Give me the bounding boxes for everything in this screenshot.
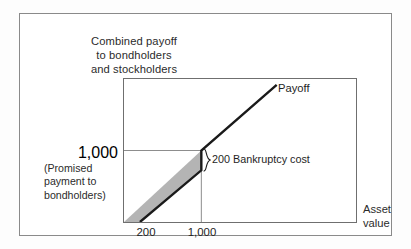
plot-area (123, 78, 357, 223)
y-axis-note-line-1: (Promised (44, 162, 124, 175)
plot-svg (124, 79, 356, 222)
brace-right-icon (203, 148, 212, 172)
payoff-series-label: Payoff (278, 82, 310, 94)
x-axis-title: Asset value (363, 203, 411, 230)
x-axis-tick-label-1000: 1,000 (178, 226, 226, 238)
x-axis-tick-label-200: 200 (126, 226, 166, 238)
chart-title-line-3: and stockholders (54, 62, 214, 76)
y-axis-note: (Promised payment to bondholders) (44, 162, 124, 202)
figure-container: Combined payoff to bondholders and stock… (0, 0, 411, 249)
bankruptcy-cost-annotation: 200 Bankruptcy cost (212, 153, 310, 165)
x-axis-title-line-1: Asset (363, 203, 411, 217)
bankruptcy-cost-wedge (124, 151, 201, 223)
y-axis-tick-group: 1,000 (60, 144, 118, 162)
chart-title: Combined payoff to bondholders and stock… (54, 34, 214, 77)
y-axis-tick-label-1000: 1,000 (78, 144, 118, 161)
y-axis-note-line-2: payment to (44, 175, 124, 188)
chart-title-line-1: Combined payoff (54, 34, 214, 48)
figure-outer-frame: Combined payoff to bondholders and stock… (19, 13, 392, 236)
x-axis-title-line-2: value (363, 217, 411, 231)
chart-title-line-2: to bondholders (54, 48, 214, 62)
y-axis-note-line-3: bondholders) (44, 189, 124, 202)
